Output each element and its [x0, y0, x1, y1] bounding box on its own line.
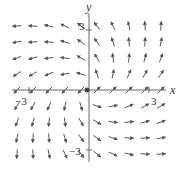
vector-arrow [128, 22, 130, 31]
vector-arrow [61, 41, 70, 44]
vector-arrow [127, 70, 131, 78]
vector-arrow [29, 26, 38, 27]
vector-arrow [49, 134, 50, 143]
vector-arrow [141, 154, 150, 155]
vector-arrow [111, 22, 115, 30]
vector-arrow [144, 54, 146, 63]
x-axis-label: x [170, 83, 175, 98]
vector-field-plot [0, 0, 182, 174]
vector-arrow [13, 72, 21, 77]
vector-arrow [49, 118, 50, 127]
y-tick-label-pos: 3 [79, 20, 85, 32]
vector-arrow [125, 153, 134, 155]
vector-arrow [16, 134, 18, 143]
vector-arrow [109, 152, 117, 156]
vector-arrow [63, 150, 67, 158]
vector-arrow [125, 138, 134, 139]
vector-arrow [145, 38, 146, 47]
vector-arrow [112, 70, 114, 79]
vector-arrow [13, 41, 22, 43]
vector-arrow [157, 137, 166, 139]
vector-arrow [33, 150, 34, 159]
vector-arrow [143, 70, 147, 78]
vector-arrow [157, 104, 165, 109]
vector-arrow [159, 70, 164, 78]
vector-arrow [161, 22, 162, 31]
vector-arrow [33, 134, 34, 143]
vector-arrow [77, 73, 86, 76]
vector-arrow [64, 102, 66, 111]
vector-arrow [45, 58, 54, 59]
vector-arrow [47, 102, 51, 110]
vector-arrow [31, 102, 35, 110]
vector-arrow [93, 151, 100, 157]
vector-arrow [94, 22, 100, 29]
y-tick-label-neg: −3 [69, 145, 81, 157]
vector-arrow [109, 105, 118, 107]
x-tick-label-neg: −3 [15, 95, 27, 107]
vector-arrow [141, 104, 149, 108]
vector-arrow [77, 39, 84, 44]
origin-marker [85, 88, 90, 93]
vector-arrow [125, 122, 134, 123]
vector-arrow [15, 118, 18, 126]
vector-arrow [109, 121, 118, 122]
vector-arrow [17, 150, 18, 159]
vector-arrow [61, 73, 70, 75]
vector-arrow [157, 120, 165, 123]
vector-arrow [159, 54, 162, 62]
vector-arrow [79, 118, 84, 126]
vector-arrow [141, 121, 150, 123]
vector-arrow [96, 70, 99, 79]
vector-arrow [29, 42, 38, 43]
vector-arrow [160, 38, 162, 47]
vector-arrow [129, 38, 130, 47]
vector-arrow [93, 105, 102, 108]
vector-arrow [78, 134, 83, 141]
vector-arrow [125, 104, 133, 108]
vector-arrow [64, 118, 65, 127]
y-axis-label: y [86, 0, 91, 15]
x-tick-label-pos: 3 [151, 95, 157, 107]
vector-arrow [94, 38, 99, 45]
vector-arrow [45, 72, 53, 76]
vector-arrow [61, 57, 70, 58]
vector-arrow [32, 118, 34, 127]
vector-arrow [129, 54, 130, 63]
vector-arrow [93, 120, 101, 125]
vector-arrow [13, 56, 21, 59]
vector-arrow [93, 135, 100, 140]
vector-arrow [64, 134, 67, 143]
vector-arrow [48, 150, 50, 159]
vector-arrow [157, 154, 166, 155]
vector-arrow [145, 22, 146, 31]
vector-arrow [95, 54, 100, 62]
vector-arrow [77, 56, 85, 61]
vector-arrow [141, 138, 150, 139]
vector-arrow [45, 42, 54, 43]
vector-arrow [109, 137, 118, 140]
vector-arrow [112, 38, 115, 47]
vector-arrow [29, 72, 37, 76]
vector-arrow [29, 57, 38, 59]
vector-arrow [61, 24, 69, 28]
vector-arrow [80, 102, 83, 111]
vector-arrow [112, 54, 113, 63]
vector-arrow [13, 26, 22, 27]
vector-arrow [45, 25, 54, 27]
